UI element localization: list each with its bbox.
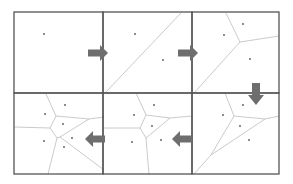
voronoi-edge-panel-5 (146, 115, 170, 118)
arrow-right-icon (88, 45, 108, 61)
voronoi-edge-panel-4 (60, 119, 89, 137)
voronoi-edge-panel-4 (48, 138, 57, 174)
site-point-panel-4 (71, 137, 73, 139)
voronoi-edge-panel-4 (56, 116, 89, 119)
site-point-panel-5 (153, 104, 155, 106)
site-point-panel-4 (44, 113, 46, 115)
voronoi-edge-panel-6 (265, 116, 279, 119)
site-point-panel-4 (63, 146, 65, 148)
voronoi-edge-panel-4 (14, 127, 50, 128)
site-point-panel-4 (43, 140, 45, 142)
site-point-panel-3 (242, 23, 244, 25)
voronoi-edge-panel-5 (146, 138, 149, 175)
arrow-right-icon (178, 45, 198, 61)
voronoi-edge-panel-3 (194, 42, 240, 93)
voronoi-edge-panel-4 (89, 117, 104, 119)
site-point-panel-5 (160, 139, 162, 141)
site-point-panel-3 (223, 34, 225, 36)
site-point-panel-6 (242, 104, 244, 106)
voronoi-edge-panel-4 (46, 94, 56, 116)
site-point-panel-5 (133, 114, 135, 116)
voronoi-edge-panel-2 (105, 13, 181, 93)
voronoi-edge-panel-6 (234, 116, 265, 119)
arrow-down-icon (248, 83, 264, 105)
step-arrows (85, 45, 264, 147)
voronoi-edge-panel-6 (211, 116, 234, 155)
arrow-left-icon (172, 131, 192, 147)
voronoi-edge-panel-4 (57, 137, 60, 138)
voronoi-edge-panel-6 (194, 155, 211, 174)
voronoi-edge-panel-5 (170, 116, 192, 118)
site-point-panel-4 (64, 104, 66, 106)
site-point-panel-2 (134, 33, 136, 35)
site-point-panel-1 (43, 33, 45, 35)
voronoi-edges (14, 13, 279, 175)
voronoi-edge-panel-5 (146, 118, 170, 138)
voronoi-edge-panel-6 (225, 93, 234, 116)
voronoi-edge-panel-5 (140, 115, 146, 128)
voronoi-edge-panel-6 (211, 119, 265, 155)
site-point-panel-6 (222, 114, 224, 116)
site-point-panel-5 (131, 141, 133, 143)
voronoi-construction-diagram (0, 0, 293, 184)
voronoi-edge-panel-5 (140, 128, 146, 138)
site-point-panel-4 (62, 123, 64, 125)
voronoi-sites (43, 23, 251, 148)
voronoi-edge-panel-3 (240, 36, 279, 42)
voronoi-edge-panel-4 (50, 116, 56, 128)
site-point-panel-2 (162, 59, 164, 61)
arrow-left-icon (85, 131, 105, 147)
site-point-panel-6 (239, 125, 241, 127)
site-point-panel-3 (249, 58, 251, 60)
voronoi-edge-panel-3 (226, 13, 240, 42)
panel-4-frame (14, 93, 103, 174)
site-point-panel-5 (151, 125, 153, 127)
voronoi-edge-panel-4 (50, 128, 57, 138)
voronoi-edge-panel-5 (136, 93, 146, 115)
site-point-panel-6 (248, 139, 250, 141)
